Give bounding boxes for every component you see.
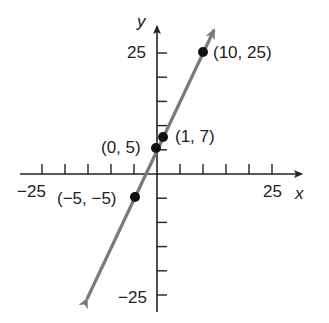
point-1-7 (158, 132, 168, 142)
y-axis-label: y (137, 13, 146, 30)
y-min-label: −25 (118, 289, 147, 306)
y-max-label: 25 (127, 44, 146, 61)
point-10-25 (198, 47, 208, 57)
coordinate-plane (0, 0, 329, 323)
x-axis-label: x (295, 185, 304, 202)
x-max-label: 25 (263, 183, 282, 200)
point-label-1-7: (1, 7) (175, 128, 215, 145)
point-0-5 (151, 143, 161, 153)
point-label-0-5: (0, 5) (101, 139, 141, 156)
point-neg5-neg5 (130, 192, 140, 202)
line-y-equals-2x-plus-5 (87, 30, 214, 299)
point-label-neg5-neg5: (−5, −5) (57, 190, 117, 207)
x-min-label: −25 (17, 183, 46, 200)
point-label-10-25: (10, 25) (213, 44, 272, 61)
